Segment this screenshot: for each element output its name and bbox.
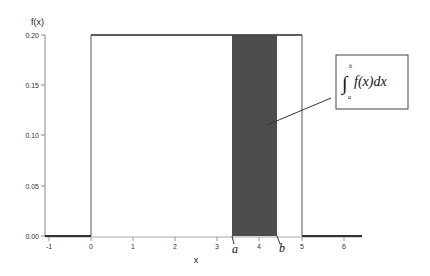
y-ticks — [41, 35, 45, 236]
y-tick-label: 0.00 — [25, 233, 39, 240]
x-axis-label: x — [194, 255, 199, 265]
y-tick-label: 0.05 — [25, 183, 39, 190]
a-label: a — [232, 242, 238, 256]
x-tick-label: 4 — [257, 243, 261, 250]
chart: 0.20 0.15 0.10 0.05 0.00 f(x) -1 0 1 2 3… — [0, 0, 430, 276]
integral-lower: a — [348, 94, 351, 100]
x-tick-label: 6 — [342, 243, 346, 250]
x-tick-label: 5 — [300, 243, 304, 250]
x-tick-label: 1 — [131, 243, 135, 250]
y-tick-label: 0.10 — [25, 132, 39, 139]
x-tick-label: 2 — [173, 243, 177, 250]
y-axis-label: f(x) — [31, 17, 44, 27]
shaded-area — [232, 35, 277, 236]
integrand: f(x)dx — [354, 74, 387, 90]
b-label: b — [279, 241, 285, 255]
x-tick-label: 0 — [89, 243, 93, 250]
integral-upper: b — [349, 63, 352, 69]
y-tick-label: 0.15 — [25, 82, 39, 89]
x-tick-label: -1 — [46, 243, 52, 250]
y-tick-label: 0.20 — [25, 32, 39, 39]
x-tick-label: 3 — [215, 243, 219, 250]
x-ticks — [49, 237, 344, 241]
